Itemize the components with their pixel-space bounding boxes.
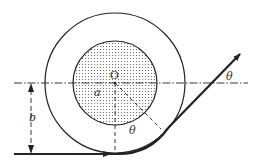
- label-angle-theta-outer: θ: [226, 71, 233, 82]
- label-impact-parameter-b: b: [29, 112, 36, 123]
- label-angle-theta-inner: θ: [129, 125, 136, 136]
- diagram-svg: [0, 0, 258, 166]
- center-point: [114, 82, 117, 85]
- label-inner-radius-a: a: [94, 87, 101, 98]
- dimension-b-arrow-down-icon: [28, 145, 34, 154]
- label-center-o: O: [110, 69, 119, 81]
- curved-trajectory: [110, 128, 168, 154]
- dimension-b-arrow-up-icon: [28, 83, 34, 92]
- scattering-diagram: O a b θ θ: [0, 0, 258, 166]
- outgoing-trajectory: [168, 54, 240, 128]
